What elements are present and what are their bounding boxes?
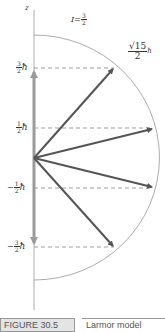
magnitude-label: √152ħ bbox=[128, 42, 152, 61]
level-sign: − bbox=[7, 183, 14, 192]
magnitude-fraction: √152 bbox=[128, 42, 147, 61]
spin-vector-neg-3-2 bbox=[34, 158, 113, 246]
hbar-symbol: ħ bbox=[20, 241, 26, 251]
spin-vector-3-2 bbox=[34, 69, 113, 158]
spin-quantum-label: I=32 bbox=[71, 13, 87, 26]
hbar-symbol: ħ bbox=[22, 62, 28, 72]
hbar-symbol: ħ bbox=[22, 122, 28, 132]
magnitude-arc bbox=[34, 35, 159, 280]
level-denominator: 2 bbox=[15, 247, 19, 253]
level-label-neg-3-2: −32ħ bbox=[7, 240, 25, 253]
figure-caption-text: Larmor model bbox=[82, 318, 165, 332]
level-denominator: 2 bbox=[15, 188, 19, 194]
level-label-neg-1-2: −12ħ bbox=[7, 181, 25, 194]
level-denominator: 2 bbox=[17, 128, 21, 134]
level-label-3-2: 32ħ bbox=[16, 61, 28, 74]
level-sign: − bbox=[7, 242, 14, 251]
spin-vector-neg-1-2 bbox=[34, 158, 152, 187]
level-label-1-2: 12ħ bbox=[16, 121, 28, 134]
level-denominator: 2 bbox=[17, 68, 21, 74]
spin-fraction: 32 bbox=[81, 13, 87, 26]
equals-sign: = bbox=[74, 15, 81, 24]
spin-denominator: 2 bbox=[82, 20, 86, 26]
magnitude-denominator: 2 bbox=[135, 52, 141, 61]
z-axis-label: z bbox=[25, 5, 29, 12]
hbar-symbol: ħ bbox=[147, 47, 152, 55]
spin-vector-1-2 bbox=[34, 129, 152, 158]
figure-label: FIGURE 30.5 bbox=[0, 318, 75, 332]
hbar-symbol: ħ bbox=[20, 182, 26, 192]
